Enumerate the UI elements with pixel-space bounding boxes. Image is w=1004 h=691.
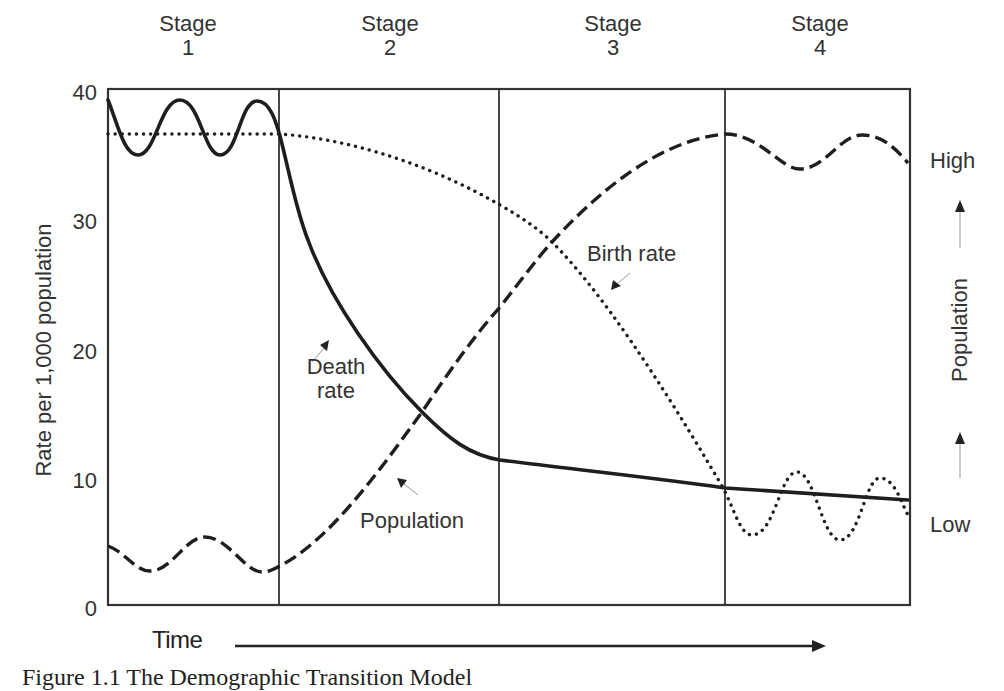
right-axis-low-label: Low: [930, 512, 970, 538]
death-rate-annotation: Death rate: [296, 355, 376, 403]
figure-caption: Figure 1.1 The Demographic Transition Mo…: [22, 664, 472, 691]
birth-rate-annotation-arrow: [611, 273, 630, 290]
death-rate-annotation-line2: rate: [296, 379, 376, 403]
right-axis-title: Population: [947, 278, 973, 382]
birth-rate-line: [108, 134, 908, 540]
plot-frame: [108, 89, 910, 605]
population-line: [108, 134, 908, 572]
birth-rate-annotation: Birth rate: [587, 242, 676, 266]
population-annotation-arrow: [397, 478, 418, 495]
death-rate-line: [108, 100, 908, 500]
death-rate-annotation-line1: Death: [296, 355, 376, 379]
right-axis-up-arrow-bottom: [955, 432, 965, 478]
time-arrow: [235, 640, 826, 652]
right-axis-up-arrow-top: [955, 200, 965, 248]
population-annotation: Population: [360, 509, 464, 533]
x-axis-title: Time: [152, 626, 202, 654]
right-axis-high-label: High: [930, 148, 975, 174]
